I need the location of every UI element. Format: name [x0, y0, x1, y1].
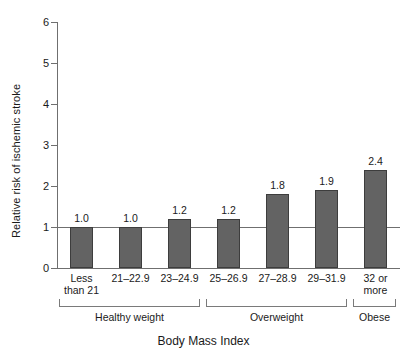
x-axis-category-label-line: 25–26.9	[203, 272, 255, 284]
x-axis-category-label-line: Less	[56, 272, 108, 284]
bar	[70, 227, 93, 268]
y-axis-tick-label: 6	[27, 17, 49, 28]
y-axis-tick	[51, 104, 58, 105]
x-axis-category-label: 27–28.9	[252, 272, 304, 284]
bar	[217, 219, 240, 268]
group-bracket	[206, 299, 347, 307]
bar-chart: Relative risk of ischemic stroke 0123456…	[0, 0, 407, 358]
x-axis-category-label-line: 21–22.9	[105, 272, 157, 284]
y-axis-tick-label: 1	[27, 222, 49, 233]
x-axis-line	[57, 268, 400, 269]
x-axis-category-label-line: 29–31.9	[301, 272, 353, 284]
bar-value-label: 1.0	[62, 213, 102, 224]
y-axis-title: Relative risk of ischemic stroke	[10, 61, 22, 261]
x-axis-category-label: 32 ormore	[350, 272, 402, 296]
x-axis-category-label-line: 27–28.9	[252, 272, 304, 284]
x-axis-title: Body Mass Index	[0, 334, 407, 348]
x-axis-category-label: 25–26.9	[203, 272, 255, 284]
x-axis-category-label-line: more	[350, 284, 402, 296]
x-axis-category-label: 29–31.9	[301, 272, 353, 284]
y-axis-tick	[51, 145, 58, 146]
y-axis-tick-label: 4	[27, 99, 49, 110]
x-axis-category-label-line: than 21	[56, 284, 108, 296]
bar	[266, 194, 289, 268]
x-axis-category-label: 21–22.9	[105, 272, 157, 284]
y-axis-tick	[51, 63, 58, 64]
y-axis-tick-label: 5	[27, 58, 49, 69]
y-axis-tick-label: 3	[27, 140, 49, 151]
y-axis-tick-label: 0	[27, 263, 49, 274]
bar	[315, 190, 338, 268]
group-bracket	[59, 299, 200, 307]
x-axis-category-label: Lessthan 21	[56, 272, 108, 296]
group-bracket	[353, 299, 396, 307]
bar	[364, 170, 387, 268]
x-axis-category-label-line: 32 or	[350, 272, 402, 284]
y-axis-tick	[51, 268, 58, 269]
bar	[119, 227, 142, 268]
x-axis-category-label: 23–24.9	[154, 272, 206, 284]
bar	[168, 219, 191, 268]
group-bracket-label: Obese	[353, 311, 396, 323]
bar-value-label: 2.4	[356, 156, 396, 167]
bar-value-label: 1.9	[307, 176, 347, 187]
group-bracket-label: Healthy weight	[59, 311, 200, 323]
y-axis-tick	[51, 186, 58, 187]
y-axis-tick-label: 2	[27, 181, 49, 192]
bar-value-label: 1.0	[111, 213, 151, 224]
group-bracket-label: Overweight	[206, 311, 347, 323]
x-axis-category-label-line: 23–24.9	[154, 272, 206, 284]
y-axis-tick	[51, 22, 58, 23]
bar-value-label: 1.2	[160, 205, 200, 216]
bar-value-label: 1.8	[258, 180, 298, 191]
bar-value-label: 1.2	[209, 205, 249, 216]
